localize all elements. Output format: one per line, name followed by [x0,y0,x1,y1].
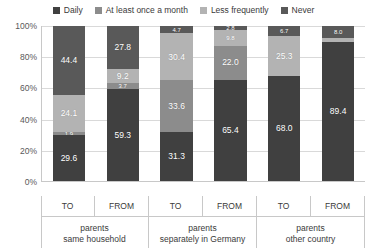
category-sub-label: TO [41,196,95,216]
y-axis: 100%80%60%40%20%0% [0,26,40,182]
category-sub-label: FROM [203,196,256,216]
bar-segment-value-label: 59.3 [114,131,131,140]
category-sub-label: FROM [311,196,364,216]
bar-group: 4.730.433.631.32.89.822.065.4 [150,26,258,181]
bar-segment-value-label: 6.7 [280,28,288,34]
bar-segment[interactable]: 89.4 [322,42,354,181]
bar-segment-value-label: 30.4 [168,53,185,62]
legend-swatch-icon [200,7,207,14]
y-axis-tick-label: 40% [20,115,37,125]
plot-area: 100%80%60%40%20%0% 44.424.11.929.627.89.… [0,26,367,196]
bar-segment[interactable]: 44.4 [53,26,85,95]
bar-segment[interactable]: 30.4 [160,33,192,80]
bar-segment[interactable]: 59.3 [107,89,139,181]
bar-segment-value-label: 4.7 [172,27,180,33]
y-axis-tick-label: 0% [25,177,37,187]
bar-segment[interactable]: 65.4 [214,80,246,181]
bar-segment-value-label: 29.6 [61,154,78,163]
category-group: TOFROMparentsother country [257,196,365,248]
category-group-label-line1: parents [296,223,324,234]
stacked-bar[interactable]: 44.424.11.929.6 [53,26,85,181]
bar-segment-value-label: 44.4 [61,56,78,65]
stacked-bar-chart: DailyAt least once a monthLess frequentl… [0,0,367,251]
bar-group: 6.725.368.08.089.4 [257,26,365,181]
stacked-bar[interactable]: 8.089.4 [322,26,354,181]
bar-segment[interactable]: 33.6 [160,80,192,132]
category-group: TOFROMparentssame household [41,196,149,248]
category-group-label-line2: other country [286,234,336,245]
legend-swatch-icon [53,7,60,14]
bars-layer: 44.424.11.929.627.89.23.759.34.730.433.6… [42,26,365,181]
plot-canvas: 44.424.11.929.627.89.23.759.34.730.433.6… [41,26,365,182]
legend-item-label: Daily [64,6,83,15]
bar-segment-value-label: 22.0 [222,58,239,67]
category-sub-label: TO [149,196,203,216]
bar-segment-value-label: 65.4 [222,126,239,135]
legend-item-label: At least once a month [106,6,188,15]
category-group-label: parentsseparately in Germany [149,217,256,248]
bar-segment[interactable]: 9.8 [214,30,246,45]
legend-item[interactable]: Never [281,6,315,15]
bar-segment-value-label: 25.3 [276,52,293,61]
bar-segment-value-label: 33.6 [168,102,185,111]
bar-segment[interactable]: 31.3 [160,132,192,181]
bar-segment[interactable]: 27.8 [107,26,139,69]
chart-legend: DailyAt least once a monthLess frequentl… [0,6,367,15]
category-group-label: parentssame household [41,217,148,248]
bar-segment-value-label: 89.4 [330,107,347,116]
legend-item[interactable]: Daily [53,6,83,15]
legend-item-label: Never [292,6,315,15]
bar-segment-value-label: 68.0 [276,124,293,133]
bar-segment-value-label: 9.8 [226,35,234,41]
bar-segment[interactable]: 9.2 [107,69,139,83]
bar-segment-value-label: 27.8 [114,43,131,52]
y-axis-tick-label: 20% [20,146,37,156]
stacked-bar[interactable]: 27.89.23.759.3 [107,26,139,181]
legend-swatch-icon [281,7,288,14]
bar-segment[interactable]: 6.7 [268,26,300,36]
bar-segment[interactable]: 8.0 [322,26,354,38]
bar-segment-value-label: 31.3 [168,152,185,161]
bar-segment[interactable]: 68.0 [268,76,300,181]
legend-item[interactable]: Less frequently [200,6,269,15]
y-axis-tick-label: 60% [20,83,37,93]
category-group-label: parentsother country [257,217,364,248]
bar-segment-value-label: 24.1 [61,109,78,118]
y-axis-tick-label: 100% [15,21,37,31]
category-axis: TOFROMparentssame householdTOFROMparents… [41,196,365,248]
category-group: TOFROMparentsseparately in Germany [149,196,257,248]
legend-swatch-icon [95,7,102,14]
stacked-bar[interactable]: 6.725.368.0 [268,26,300,181]
category-sub-row: TOFROM [257,196,364,217]
bar-segment[interactable]: 22.0 [214,46,246,80]
bar-segment[interactable]: 29.6 [53,135,85,181]
category-sub-row: TOFROM [149,196,256,217]
category-group-label-line1: parents [80,223,108,234]
bar-segment-value-label: 9.2 [117,72,129,81]
bar-segment[interactable]: 24.1 [53,95,85,132]
bar-group: 44.424.11.929.627.89.23.759.3 [42,26,150,181]
y-axis-tick-label: 80% [20,52,37,62]
category-sub-row: TOFROM [41,196,148,217]
category-sub-label: FROM [95,196,148,216]
legend-item[interactable]: At least once a month [95,6,188,15]
legend-item-label: Less frequently [211,6,269,15]
stacked-bar[interactable]: 4.730.433.631.3 [160,26,192,181]
stacked-bar[interactable]: 2.89.822.065.4 [214,26,246,181]
bar-segment-value-label: 8.0 [334,29,342,35]
bar-segment[interactable]: 4.7 [160,26,192,33]
category-group-label-line2: same household [63,234,125,245]
category-group-label-line2: separately in Germany [160,234,246,245]
bar-segment[interactable]: 25.3 [268,36,300,75]
category-group-label-line1: parents [188,223,216,234]
category-sub-label: TO [257,196,311,216]
